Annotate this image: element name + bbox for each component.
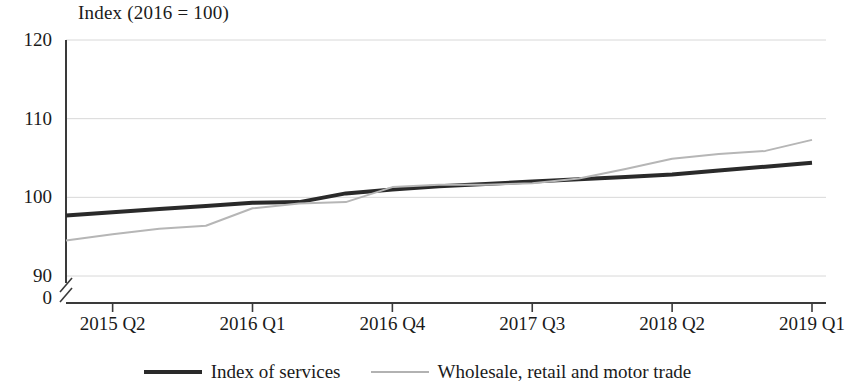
y-tick-label: 100 <box>6 187 52 206</box>
x-tick-label: 2019 Q1 <box>752 314 849 334</box>
y-tick-label: 110 <box>6 109 52 128</box>
legend-entry-wholesale-retail-motor-trade: Wholesale, retail and motor trade <box>371 362 692 382</box>
series-line-1 <box>66 140 812 241</box>
legend-swatch-light-line-icon <box>371 371 429 373</box>
legend-label-index-of-services: Index of services <box>211 362 341 382</box>
legend-label-wholesale-retail-motor-trade: Wholesale, retail and motor trade <box>438 362 692 382</box>
x-tick-label: 2016 Q1 <box>193 314 313 334</box>
y-tick-label: 90 <box>6 266 52 285</box>
x-tick-label: 2015 Q2 <box>53 314 173 334</box>
chart-legend: Index of services Wholesale, retail and … <box>0 356 835 388</box>
x-tick-label: 2018 Q2 <box>612 314 732 334</box>
y-tick-label-zero: 0 <box>6 288 52 307</box>
series-line-0 <box>66 163 812 216</box>
legend-entry-index-of-services: Index of services <box>144 362 341 382</box>
x-tick-label: 2017 Q3 <box>472 314 592 334</box>
y-tick-label: 120 <box>6 30 52 49</box>
legend-swatch-solid-line-icon <box>144 370 202 374</box>
x-tick-label: 2016 Q4 <box>332 314 452 334</box>
